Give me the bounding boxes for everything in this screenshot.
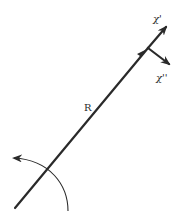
vector-r bbox=[15, 48, 148, 208]
label-chi-double-prime: χ'' bbox=[155, 72, 168, 83]
chi-double-prime-vector bbox=[148, 48, 169, 64]
rotation-arc-path bbox=[14, 158, 68, 211]
chi-prime-shaft bbox=[148, 27, 166, 48]
rotation-arc bbox=[14, 158, 68, 211]
chi-double-prime-shaft bbox=[148, 48, 169, 64]
label-chi-prime: χ' bbox=[152, 13, 162, 24]
label-r: R bbox=[84, 102, 92, 113]
vector-diagram: R χ' χ'' bbox=[0, 0, 185, 218]
chi-prime-vector bbox=[148, 27, 166, 48]
vector-r-shaft bbox=[15, 48, 148, 208]
